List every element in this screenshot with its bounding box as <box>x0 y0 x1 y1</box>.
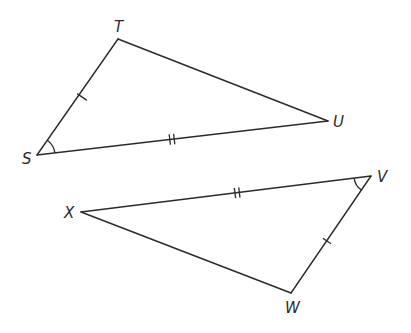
angle-mark-v <box>354 178 361 190</box>
vertex-label-w: W <box>285 299 301 317</box>
vertex-label-v: V <box>377 168 389 186</box>
angle-mark-s <box>47 140 55 153</box>
vertex-label-x: X <box>63 204 75 222</box>
triangle-stu: T S U <box>22 18 344 168</box>
congruent-triangles-diagram: T S U X V W <box>0 0 411 333</box>
edge-xw <box>81 212 291 293</box>
vertex-label-u: U <box>333 113 344 131</box>
single-tick-mark-st <box>77 94 87 101</box>
edge-st <box>37 39 118 155</box>
edge-tu <box>118 39 328 121</box>
vertex-label-t: T <box>114 18 125 36</box>
single-tick-mark-vw <box>323 238 331 244</box>
edge-xv <box>81 176 371 212</box>
edge-vw <box>291 176 371 293</box>
triangle-xvw: X V W <box>63 168 389 317</box>
vertex-label-s: S <box>22 150 32 168</box>
edge-su <box>37 121 328 155</box>
